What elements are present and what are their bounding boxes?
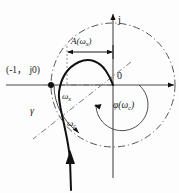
imaginary-axis-label: j: [117, 14, 121, 25]
real-axis: [6, 82, 174, 87]
phase-label: φ(ωc): [113, 100, 134, 111]
amplitude-arrow-left: [67, 50, 73, 55]
omega-c-label: ωc: [67, 118, 76, 129]
nyquist-figure: j 0 (-1， j0) A(ωx) φ(ωc) ωx ωc γ: [0, 0, 179, 193]
phase-label-close: ): [130, 100, 134, 111]
gamma-label: γ: [30, 105, 35, 116]
critical-point-label: (-1， j0): [6, 65, 40, 76]
svg-text:ωx: ωx: [62, 91, 71, 102]
amplitude-label: A(ωx): [70, 36, 92, 47]
imaginary-axis-arrowhead: [110, 14, 115, 20]
svg-text:A(ωx): A(ωx): [70, 36, 92, 47]
origin-label: 0: [117, 70, 122, 81]
nyquist-diagram-canvas: j 0 (-1， j0) A(ωx) φ(ωc) ωx ωc γ: [0, 0, 179, 193]
omega-c-subscript: c: [73, 122, 76, 129]
amplitude-label-close: ): [88, 36, 92, 46]
omega-x-subscript: x: [67, 95, 71, 102]
omega-x-label: ωx: [62, 91, 71, 102]
critical-point-marker: [48, 82, 54, 88]
real-axis-arrowhead: [168, 82, 174, 87]
svg-text:φ(ωc): φ(ωc): [113, 100, 134, 111]
locus-direction-arrowhead: [66, 150, 75, 164]
svg-text:ωc: ωc: [67, 118, 76, 129]
amplitude-arrow-right: [107, 50, 113, 55]
amplitude-dimension: [67, 45, 113, 59]
phase-arc-arrowhead: [94, 104, 102, 110]
imaginary-axis: [110, 14, 115, 178]
